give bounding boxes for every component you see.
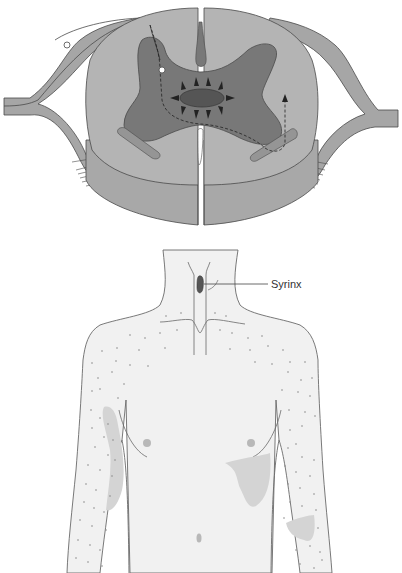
dorsal-root-ganglion-left (64, 42, 70, 48)
syrinx-cavity (180, 89, 224, 107)
torso-diagram: Syrinx (0, 240, 402, 573)
body-panel: Syrinx (0, 240, 402, 573)
syrinx-label: Syrinx (271, 278, 302, 290)
syrinx-neck (197, 276, 203, 293)
navel (197, 534, 202, 543)
shaded-area-right-forearm (286, 515, 315, 541)
nipple-right (247, 439, 255, 447)
dorsal-horn-neuron (159, 67, 165, 73)
spinal-cord-diagram (0, 0, 402, 240)
anterior-fissure (198, 129, 203, 166)
nipple-left (143, 439, 151, 447)
spinal-cord-panel (0, 0, 402, 240)
